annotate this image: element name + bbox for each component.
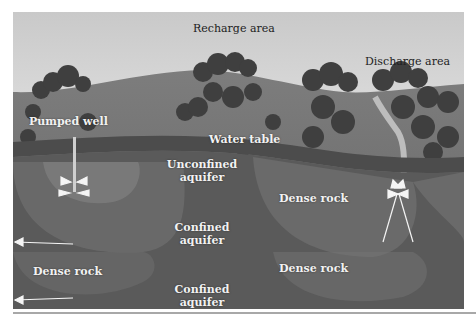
bottom-rule [13,312,476,314]
label-water-table: Water table [209,133,280,146]
label-confined-aquifer-2: Confined aquifer [157,283,247,309]
label-recharge-area: Recharge area [193,22,275,35]
well-pipe [73,137,76,192]
label-unconfined-aquifer: Unconfined aquifer [157,158,247,184]
label-pumped-well: Pumped well [29,115,108,128]
label-dense-rock-right-upper: Dense rock [279,192,348,205]
label-discharge-area: Discharge area [365,55,450,68]
label-dense-rock-right-lower: Dense rock [279,262,348,275]
label-confined-aquifer-1: Confined aquifer [157,221,247,247]
aquifer-diagram: Recharge area Discharge area Pumped well… [13,12,464,309]
label-dense-rock-left: Dense rock [33,265,102,278]
